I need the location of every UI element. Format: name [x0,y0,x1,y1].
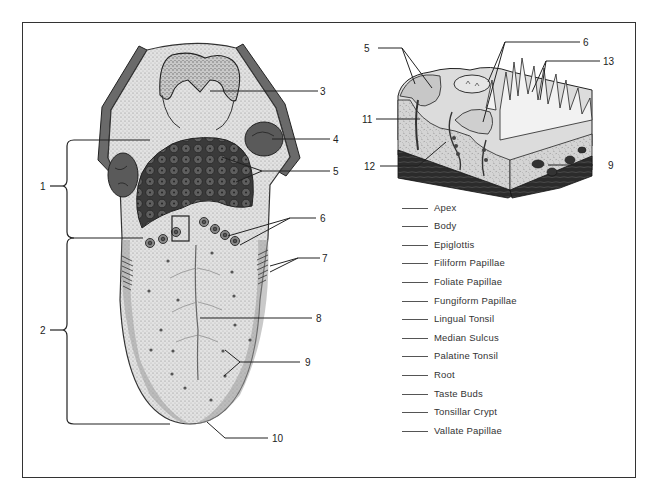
answer-blank[interactable] [402,319,428,320]
answer-blank[interactable] [402,356,428,357]
answer-blank[interactable] [402,208,428,209]
term-foliate-papillae: Foliate Papillae [402,268,602,287]
callout-13: 13 [603,56,615,67]
term-vallate-papillae: Vallate Papillae [402,417,602,436]
callout-11: 11 [362,114,373,125]
term-body: Body [402,213,602,232]
callout-2: 2 [40,325,46,336]
callout-9-block: 9 [608,160,614,171]
term-root: Root [402,361,602,380]
callout-9: 9 [305,357,311,368]
term-apex: Apex [402,194,602,213]
callout-7: 7 [322,253,328,264]
palatine-tonsil-left [108,153,138,197]
callout-12: 12 [364,161,376,172]
term-median-sulcus: Median Sulcus [402,324,602,343]
answer-blank[interactable] [402,412,428,413]
tongue-body [108,43,290,424]
term-tonsillar-crypt: Tonsillar Crypt [402,399,602,418]
callout-4: 4 [333,134,339,145]
term-taste-buds: Taste Buds [402,380,602,399]
callout-5: 5 [333,166,339,177]
callout-10: 10 [272,433,284,444]
answer-blank[interactable] [402,431,428,432]
answer-blank[interactable] [402,263,428,264]
term-list: Apex Body Epiglottis Filiform Papillae F… [402,194,602,436]
answer-blank[interactable] [402,282,428,283]
answer-blank[interactable] [402,394,428,395]
callout-3: 3 [320,86,326,97]
callout-1: 1 [40,181,46,192]
callout-5-block: 5 [364,43,370,54]
term-palatine-tonsil: Palatine Tonsil [402,343,602,362]
callout-6-block: 6 [583,37,589,48]
answer-blank[interactable] [402,338,428,339]
callout-6: 6 [320,213,326,224]
answer-blank[interactable] [402,301,428,302]
answer-blank[interactable] [402,375,428,376]
term-filiform-papillae: Filiform Papillae [402,250,602,269]
answer-blank[interactable] [402,245,428,246]
answer-blank[interactable] [402,226,428,227]
term-fungiform-papillae: Fungiform Papillae [402,287,602,306]
callout-8: 8 [316,313,322,324]
term-lingual-tonsil: Lingual Tonsil [402,306,602,325]
term-epiglottis: Epiglottis [402,231,602,250]
